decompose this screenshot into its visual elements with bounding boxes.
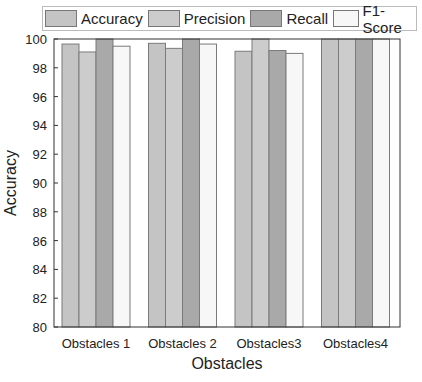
- x-tick-label: Obstacles 1: [62, 336, 131, 351]
- bar-recall: [269, 51, 286, 327]
- x-tick-label: Obstacles 2: [148, 336, 217, 351]
- bars-group: [62, 39, 390, 327]
- bar-precision: [79, 52, 96, 327]
- bar-f1-score: [373, 39, 390, 327]
- x-tick-label: Obstacles3: [236, 336, 301, 351]
- bar-accuracy: [149, 43, 166, 327]
- bar-f1-score: [200, 44, 217, 327]
- x-axis-title: Obstacles: [191, 355, 262, 372]
- bar-recall: [96, 39, 113, 327]
- bar-f1-score: [113, 46, 130, 327]
- bar-precision: [252, 39, 269, 327]
- y-tick-label: 84: [33, 262, 47, 277]
- y-tick-label: 82: [33, 291, 47, 306]
- bar-recall: [183, 39, 200, 327]
- bar-accuracy: [235, 51, 252, 327]
- y-tick-label: 92: [33, 147, 47, 162]
- y-tick-label: 86: [33, 234, 47, 249]
- y-tick-label: 98: [33, 61, 47, 76]
- bar-recall: [356, 39, 373, 327]
- y-tick-label: 96: [33, 90, 47, 105]
- bar-f1-score: [286, 53, 303, 327]
- bar-accuracy: [322, 39, 339, 327]
- y-axis-ticks: 80828486889092949698100: [25, 32, 58, 335]
- bar-precision: [166, 48, 183, 327]
- y-tick-label: 90: [33, 176, 47, 191]
- bar-chart: 80828486889092949698100 Obstacles 1Obsta…: [0, 0, 422, 382]
- y-tick-label: 94: [33, 118, 47, 133]
- y-axis-title: Accuracy: [2, 150, 19, 216]
- bar-precision: [339, 39, 356, 327]
- bar-accuracy: [62, 44, 79, 327]
- x-tick-label: Obstacles4: [323, 336, 388, 351]
- x-axis-ticks: Obstacles 1Obstacles 2Obstacles3Obstacle…: [62, 336, 388, 351]
- y-tick-label: 88: [33, 205, 47, 220]
- y-tick-label: 100: [25, 32, 47, 47]
- y-tick-label: 80: [33, 320, 47, 335]
